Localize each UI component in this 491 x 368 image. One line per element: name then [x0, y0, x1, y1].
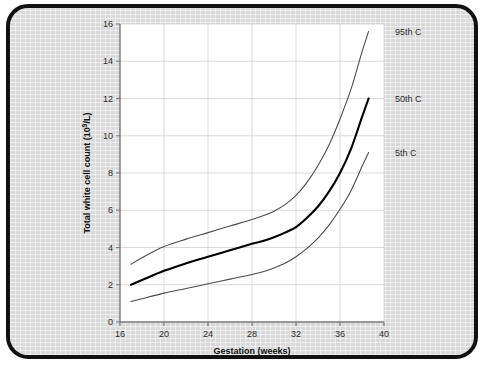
x-axis-ticks: 16202428323640: [115, 322, 389, 339]
y-tick-label: 8: [108, 168, 113, 178]
x-tick-label: 28: [247, 329, 257, 339]
series-labels: 95th C50th C5th C: [395, 27, 422, 158]
y-tick-label: 14: [103, 56, 113, 66]
y-axis-title-tail: /L): [82, 113, 92, 124]
svg-text:Total white cell count (109/L): Total white cell count (109/L): [81, 113, 93, 234]
x-tick-label: 24: [203, 329, 213, 339]
x-tick-label: 20: [159, 329, 169, 339]
y-tick-label: 0: [108, 317, 113, 327]
x-tick-label: 40: [379, 329, 389, 339]
y-tick-label: 4: [108, 243, 113, 253]
y-axis-title-main: Total white cell count (: [82, 137, 92, 233]
y-axis-title: Total white cell count (109/L): [81, 113, 93, 234]
chart-card: 0246810121416 16202428323640 95th C50th …: [6, 4, 478, 359]
y-tick-label: 16: [103, 19, 113, 29]
y-axis-ticks: 0246810121416: [103, 19, 120, 327]
x-tick-label: 32: [291, 329, 301, 339]
y-tick-label: 6: [108, 205, 113, 215]
x-tick-label: 36: [335, 329, 345, 339]
y-tick-label: 2: [108, 280, 113, 290]
y-axis-title-base: 10: [82, 127, 92, 137]
line-chart-svg: 0246810121416 16202428323640 95th C50th …: [10, 8, 478, 359]
series-label-5th-c: 5th C: [395, 148, 417, 158]
y-tick-label: 10: [103, 131, 113, 141]
x-tick-label: 16: [115, 329, 125, 339]
x-axis-title: Gestation (weeks): [213, 346, 290, 356]
series-label-95th-c: 95th C: [395, 27, 422, 37]
chart-figure: 0246810121416 16202428323640 95th C50th …: [10, 8, 478, 359]
y-tick-label: 12: [103, 94, 113, 104]
series-label-50th-c: 50th C: [395, 94, 422, 104]
